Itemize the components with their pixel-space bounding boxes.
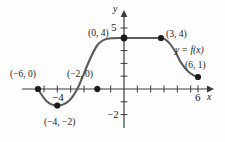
data-point-neg2-0 xyxy=(94,86,100,92)
x-axis-label: x xyxy=(207,92,211,102)
data-point-6-1 xyxy=(195,74,201,80)
point-label-neg4-neg2: (−4, −2) xyxy=(44,118,75,128)
data-point-0-4 xyxy=(121,35,128,42)
point-label-neg2-0: (−2, 0) xyxy=(67,70,93,80)
point-label-neg6-0: (−6, 0) xyxy=(10,70,36,80)
data-point-3-4 xyxy=(158,35,164,41)
function-label: y = f(x) xyxy=(175,46,204,56)
x-tick-label-6: 6 xyxy=(195,92,201,103)
graph-figure: (−6, 0) (−2, 0) (0, 4) (3, 4) (6, 1) (−4… xyxy=(0,0,225,142)
data-point-neg4-neg2 xyxy=(54,102,60,108)
point-label-0-4: (0, 4) xyxy=(88,29,109,39)
point-label-6-1: (6, 1) xyxy=(185,61,206,71)
point-label-3-4: (3, 4) xyxy=(166,30,187,40)
data-point-neg6-0 xyxy=(35,86,41,92)
y-tick-label-neg2: −2 xyxy=(107,109,119,120)
x-axis xyxy=(22,86,214,93)
y-tick-label-5: 5 xyxy=(111,22,117,33)
y-axis-label: y xyxy=(113,4,117,14)
x-tick-label-neg4: −4 xyxy=(52,92,64,103)
